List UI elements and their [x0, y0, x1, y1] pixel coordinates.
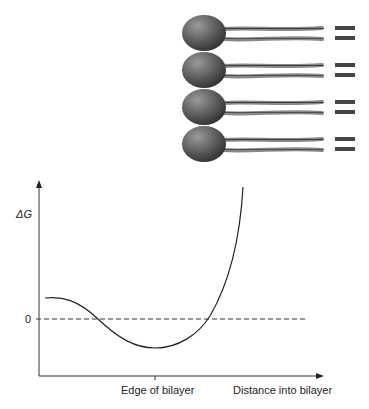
axes: [36, 180, 324, 380]
y-axis-arrow-icon: [36, 180, 42, 188]
lipid-3: [182, 89, 355, 125]
x-tick-label: Edge of bilayer: [121, 384, 195, 396]
y-axis-label: ΔG: [15, 208, 32, 220]
zero-label: 0: [25, 313, 31, 325]
delta-g-curve: [45, 187, 243, 348]
lipid-molecules: [182, 15, 355, 162]
lipid-4: [182, 126, 355, 162]
lipid-head: [182, 89, 226, 125]
lipid-head: [182, 126, 226, 162]
x-axis-arrow-icon: [316, 373, 324, 379]
lipid-head: [182, 15, 226, 51]
lipid-head: [182, 52, 226, 88]
free-energy-diagram: ΔG 0 Edge of bilayer Distance into bilay…: [0, 0, 369, 409]
lipid-2: [182, 52, 355, 88]
lipid-1: [182, 15, 355, 51]
x-axis-label: Distance into bilayer: [233, 384, 332, 396]
